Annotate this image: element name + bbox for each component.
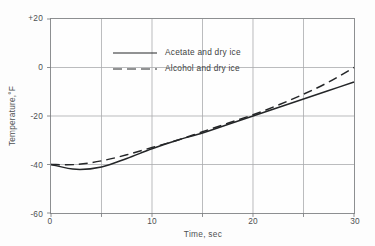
x-tick-label-10: 10 <box>147 216 157 226</box>
x-axis-title: Time, sec <box>184 229 222 239</box>
x-tick-label-30: 30 <box>350 216 360 226</box>
legend-entry-alcohol: Alcohol and dry ice <box>113 63 273 75</box>
x-tick-label-20: 20 <box>248 216 258 226</box>
y-tick-label-neg60: -60 <box>30 209 43 219</box>
y-tick-label-neg20: -20 <box>30 111 43 121</box>
series-line-acetate-and-dry-ice <box>51 82 354 169</box>
x-tick-label-0: 0 <box>48 216 53 226</box>
chart-figure: +20 0 -20 -40 -60 0 10 20 30 Temperature… <box>0 0 375 246</box>
y-tick-label-20: +20 <box>28 13 43 23</box>
plot-area: Acetate and dry ice Alcohol and dry ice <box>50 18 355 214</box>
legend-sample-solid-line <box>113 52 157 54</box>
legend-label-alcohol: Alcohol and dry ice <box>165 63 240 73</box>
y-tick-label-0: 0 <box>38 62 43 72</box>
legend-sample-dashed-line <box>113 68 157 70</box>
series-line-alcohol-and-dry-ice <box>51 68 354 165</box>
chart-legend: Acetate and dry ice Alcohol and dry ice <box>113 47 273 75</box>
y-tick-label-neg40: -40 <box>30 160 43 170</box>
y-axis-title: Temperature,°F <box>7 86 17 146</box>
legend-entry-acetate: Acetate and dry ice <box>113 47 273 59</box>
legend-label-acetate: Acetate and dry ice <box>165 47 241 57</box>
